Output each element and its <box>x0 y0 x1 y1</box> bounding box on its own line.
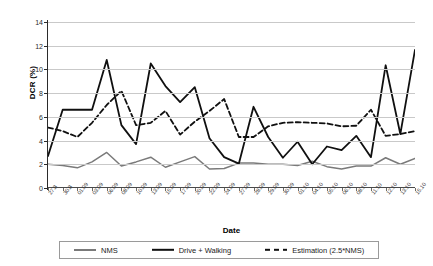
legend-item[interactable]: Drive + Walking <box>152 246 231 255</box>
gridline <box>48 141 415 142</box>
legend-swatch-icon <box>152 246 174 254</box>
plot-area <box>48 22 415 188</box>
gridline <box>48 164 415 165</box>
y-tick-label: 6 <box>23 113 43 120</box>
y-tick-label: 12 <box>23 42 43 49</box>
gridline <box>48 69 415 70</box>
series-line <box>48 91 415 137</box>
y-tick-label: 0 <box>23 185 43 192</box>
series-line <box>48 50 415 164</box>
gridline <box>48 22 415 23</box>
y-tick-label: 4 <box>23 137 43 144</box>
gridline <box>48 46 415 47</box>
chart-legend: NMSDrive + WalkingEstimation (2.5*NMS) <box>59 241 379 259</box>
y-tick-label: 10 <box>23 66 43 73</box>
gridline <box>48 93 415 94</box>
legend-swatch-icon <box>74 246 96 254</box>
legend-item[interactable]: Estimation (2.5*NMS) <box>265 246 364 255</box>
legend-label: NMS <box>101 246 118 255</box>
x-tick-label: 15.10 <box>414 181 427 195</box>
y-tick-label: 14 <box>23 19 43 26</box>
legend-label: Drive + Walking <box>179 246 231 255</box>
legend-swatch-icon <box>265 246 287 254</box>
y-tick-label: 8 <box>23 90 43 97</box>
y-axis-title: DCR (%) <box>28 53 37 113</box>
y-tick-label: 2 <box>23 161 43 168</box>
chart-figure: DCR (%) 02468101214 27.830.801.0903.0906… <box>0 0 433 266</box>
gridline <box>48 117 415 118</box>
legend-item[interactable]: NMS <box>74 246 118 255</box>
series-layer <box>48 22 415 188</box>
x-axis-title: Date <box>48 226 415 235</box>
legend-label: Estimation (2.5*NMS) <box>292 246 364 255</box>
